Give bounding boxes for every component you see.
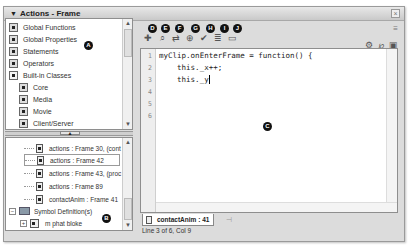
replace-icon[interactable]: ⇄: [171, 33, 181, 43]
callout-h: H: [206, 24, 215, 33]
toolbox-item-statements[interactable]: Statements: [6, 45, 122, 57]
auto-format-icon[interactable]: ≣: [213, 33, 223, 43]
script-navigator: actions : Frame 30, (cont actions : Fram…: [5, 137, 133, 231]
collapse-icon[interactable]: −: [9, 208, 16, 215]
toolbox-item-movie[interactable]: Movie: [6, 105, 122, 117]
script-icon: [36, 169, 43, 178]
callout-b: B: [102, 214, 111, 223]
pane-splitter[interactable]: ▲: [5, 131, 133, 136]
toolbox-item-label: Operators: [23, 60, 54, 67]
navigator-item-label: contactAnim : Frame 41: [49, 196, 118, 203]
navigator-item-label: actions : Frame 30, (cont: [49, 145, 121, 152]
script-icon: [37, 156, 44, 165]
code-line-current: this._y: [159, 75, 210, 84]
script-icon: [36, 182, 43, 191]
navigator-item-selected[interactable]: actions : Frame 42: [24, 154, 120, 166]
scroll-thumb[interactable]: [124, 29, 132, 57]
navigator-scrollbar[interactable]: ▲ ▼: [122, 138, 132, 230]
navigator-item-label: actions : Frame 43, (proc: [49, 170, 121, 177]
navigator-item[interactable]: actions : Frame 30, (cont: [24, 142, 128, 154]
toolbox-item-core[interactable]: Core: [6, 81, 122, 93]
toolbox-item-label: Client/Server: [33, 120, 73, 127]
panel-menu-icon[interactable]: ≡: [393, 24, 398, 33]
symbol-icon: [19, 207, 30, 215]
toolbox-item-media[interactable]: Media: [6, 93, 122, 105]
splitter-grip-icon[interactable]: ▲: [60, 131, 80, 135]
navigator-item[interactable]: contactAnim : Frame 41: [24, 193, 128, 205]
book-icon: [9, 35, 18, 44]
movieclip-icon: [30, 219, 39, 228]
editor-vertical-scrollbar[interactable]: [386, 49, 397, 202]
callout-c: C: [263, 122, 272, 131]
close-icon[interactable]: ×: [391, 9, 400, 18]
toolbox-scrollbar[interactable]: ▲ ▼: [122, 19, 132, 129]
show-code-hint-icon[interactable]: ▭: [227, 33, 237, 43]
line-number: 1: [148, 52, 152, 60]
script-editor[interactable]: 1 2 3 4 5 6 myClip.onEnterFrame = functi…: [140, 48, 398, 213]
line-number: 2: [148, 64, 152, 72]
editor-toolbar: ✚ ⌕ ⇄ ⊕ ✔ ≣ ▭: [143, 33, 237, 45]
script-icon: [146, 216, 152, 224]
callout-e: E: [161, 24, 170, 33]
navigator-item-label: actions : Frame 89: [49, 183, 103, 190]
script-tab-bar: contactAnim : 41 ⊣: [140, 214, 398, 226]
insert-target-path-icon[interactable]: ⊕: [185, 33, 195, 43]
code-line: myClip.onEnterFrame = function() {: [159, 51, 313, 60]
scroll-down-icon[interactable]: ▼: [123, 221, 133, 230]
expand-icon[interactable]: +: [20, 220, 27, 227]
toolbox-item-label: Global Functions: [23, 24, 76, 31]
scroll-thumb[interactable]: [124, 198, 132, 220]
callout-g: G: [191, 24, 200, 33]
callout-i: I: [220, 24, 229, 33]
toolbox-item-global-properties[interactable]: Global Properties: [6, 33, 122, 45]
book-icon: [9, 23, 18, 32]
toolbox-item-client-server[interactable]: Client/Server: [6, 117, 122, 129]
editor-horizontal-scrollbar[interactable]: [156, 202, 397, 212]
toolbox-item-operators[interactable]: Operators: [6, 57, 122, 69]
line-number: 6: [148, 112, 152, 120]
panel-title: Actions - Frame: [20, 9, 80, 18]
navigator-item[interactable]: actions : Frame 43, (proc: [24, 167, 128, 179]
book-icon: [19, 83, 28, 92]
check-syntax-icon[interactable]: ✔: [199, 33, 209, 43]
open-book-icon: [9, 71, 18, 80]
actions-toolbox: Global Functions Global Properties State…: [5, 18, 133, 130]
script-icon: [36, 195, 43, 204]
toolbox-item-label: Global Properties: [23, 36, 77, 43]
code-text: this._y: [159, 75, 209, 84]
line-number: 4: [148, 88, 152, 96]
script-icon: [36, 144, 43, 153]
callout-j: J: [233, 24, 242, 33]
book-icon: [19, 119, 28, 128]
book-icon: [9, 59, 18, 68]
navigator-item[interactable]: actions : Frame 89: [24, 180, 128, 192]
add-script-item-icon[interactable]: ✚: [143, 33, 153, 43]
scroll-up-icon[interactable]: ▲: [123, 19, 133, 28]
toolbox-item-built-in-classes[interactable]: Built-in Classes: [6, 69, 122, 81]
line-number: 5: [148, 100, 152, 108]
book-icon: [19, 107, 28, 116]
navigator-item-label: m phat bloke: [45, 220, 82, 227]
line-number-gutter: 1 2 3 4 5 6: [141, 49, 156, 212]
callout-a: A: [84, 41, 93, 50]
toolbox-item-label: Statements: [23, 48, 58, 55]
script-tab[interactable]: contactAnim : 41: [142, 214, 214, 226]
scroll-down-icon[interactable]: ▼: [123, 120, 133, 129]
triangle-down-icon[interactable]: ▼: [10, 10, 17, 17]
find-icon[interactable]: ⌕: [157, 33, 167, 43]
code-line: this._x++;: [159, 63, 222, 72]
navigator-item-label: actions : Frame 42: [50, 157, 104, 164]
toolbox-item-global-functions[interactable]: Global Functions: [6, 21, 122, 33]
status-bar: Line 3 of 6, Col 9: [140, 227, 398, 235]
toolbox-item-label: Media: [33, 96, 52, 103]
callout-d: D: [148, 24, 157, 33]
callout-f: F: [175, 24, 184, 33]
navigator-item-label: Symbol Definition(s): [34, 208, 92, 215]
toolbox-item-label: Built-in Classes: [23, 72, 71, 79]
scroll-up-icon[interactable]: ▲: [123, 138, 133, 147]
book-icon: [19, 95, 28, 104]
text-caret: [209, 75, 210, 84]
pin-icon[interactable]: ⊣: [226, 216, 232, 224]
line-number: 3: [148, 76, 152, 84]
book-icon: [9, 47, 18, 56]
